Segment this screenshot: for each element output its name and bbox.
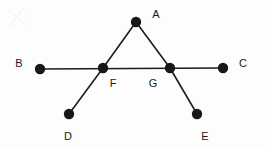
vertex-dot-a [131, 17, 141, 27]
vertex-dot-d [64, 109, 74, 119]
vertex-dot-g [165, 63, 175, 73]
vertex-label-b: B [15, 58, 22, 69]
vertex-label-f: F [110, 78, 117, 89]
vertex-dot-c [218, 63, 228, 73]
edge-a-g [136, 22, 170, 68]
vertex-label-d: D [64, 131, 72, 142]
vertex-dot-b [35, 64, 45, 74]
vertex-label-e: E [201, 131, 208, 142]
vertex-label-c: C [239, 58, 247, 69]
vertex-label-a: A [152, 9, 159, 20]
edge-g-e [170, 68, 197, 114]
vertex-dot-f [98, 63, 108, 73]
geometry-figure [0, 0, 265, 149]
edge-f-d [69, 68, 103, 114]
vertex-label-g: G [149, 78, 158, 89]
vertex-dot-e [192, 109, 202, 119]
edge-b-c [40, 68, 223, 69]
diagram-canvas: ABCDEFG [0, 0, 265, 149]
edge-a-f [103, 22, 136, 68]
edges-group [40, 22, 223, 114]
